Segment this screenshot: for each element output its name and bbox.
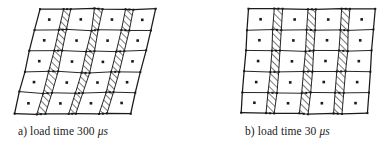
mesh-node-marker bbox=[130, 113, 132, 115]
mesh-midside-node-marker bbox=[274, 71, 276, 73]
mesh-node-marker bbox=[282, 8, 284, 10]
mesh-node-marker bbox=[145, 49, 147, 51]
mesh-midside-node-marker bbox=[340, 70, 342, 72]
mesh-node-marker bbox=[93, 7, 95, 9]
caption-unit-b: μs bbox=[319, 125, 329, 137]
mesh-cell-center-dot bbox=[106, 39, 109, 42]
mesh-node-marker bbox=[105, 91, 107, 93]
mesh-node-marker bbox=[333, 112, 335, 114]
mesh-cell-center-dot bbox=[287, 102, 290, 105]
mesh-node-marker bbox=[150, 29, 152, 31]
mesh-midside-node-marker bbox=[277, 8, 279, 10]
caption-panel-b: b) load time 30 μs bbox=[193, 124, 385, 138]
mesh-node-marker bbox=[298, 112, 300, 114]
mesh-node-marker bbox=[128, 29, 130, 31]
mesh-cell-center-dot bbox=[359, 39, 362, 42]
mesh-midside-node-marker bbox=[338, 92, 340, 94]
mesh-cell-center-dot bbox=[326, 39, 329, 42]
mesh-cell-center-dot bbox=[258, 39, 261, 42]
mesh-cell-center-dot bbox=[322, 81, 325, 84]
caption-text-b: b) load time 30 bbox=[245, 125, 319, 137]
mesh-midside-node-marker bbox=[275, 50, 277, 52]
mesh-midside-node-marker bbox=[124, 29, 126, 31]
mesh-node-marker bbox=[115, 51, 117, 53]
mesh-cell-center-dot bbox=[65, 81, 68, 84]
mesh-midside-node-marker bbox=[66, 8, 68, 10]
mesh-node-marker bbox=[155, 8, 157, 10]
mesh-node-marker bbox=[120, 29, 122, 31]
mesh-node-marker bbox=[341, 113, 343, 115]
mesh-cell-center-dot bbox=[33, 81, 36, 84]
mesh-midside-node-marker bbox=[305, 92, 307, 94]
mesh-node-marker bbox=[345, 70, 347, 72]
mesh-midside-node-marker bbox=[85, 72, 87, 74]
mesh-node-marker bbox=[301, 92, 303, 94]
mesh-node-marker bbox=[307, 113, 309, 115]
mesh-node-marker bbox=[36, 113, 38, 115]
mesh-cell-center-dot bbox=[38, 60, 41, 63]
mesh-node-marker bbox=[269, 71, 271, 73]
mesh-node-marker bbox=[265, 112, 267, 114]
mesh-node-marker bbox=[341, 8, 343, 10]
mesh-cell-center-dot bbox=[360, 18, 363, 21]
mesh-node-marker bbox=[97, 29, 99, 31]
mesh-cell-center-dot bbox=[48, 18, 51, 21]
mesh-node-marker bbox=[24, 71, 26, 73]
mesh-node-marker bbox=[14, 113, 16, 115]
mesh-cell-center-dot bbox=[120, 102, 123, 105]
mesh-midside-node-marker bbox=[94, 29, 96, 31]
figure-container: a) load time 300 μs b) load time 30 μs bbox=[0, 0, 385, 151]
mesh-node-marker bbox=[70, 8, 72, 10]
mesh-node-marker bbox=[241, 92, 243, 94]
mesh-node-marker bbox=[374, 8, 376, 10]
mesh-cell-center-dot bbox=[102, 61, 105, 64]
mesh-node-marker bbox=[372, 28, 374, 30]
mesh-node-marker bbox=[74, 92, 76, 94]
mesh-midside-node-marker bbox=[345, 8, 347, 10]
mesh-node-marker bbox=[312, 71, 314, 73]
mesh-node-marker bbox=[280, 29, 282, 31]
mesh-midside-node-marker bbox=[114, 71, 116, 73]
mesh-cell-center-dot bbox=[136, 39, 139, 42]
mesh-cell-center-dot bbox=[356, 81, 359, 84]
mesh-cell-center-dot bbox=[131, 60, 134, 63]
mesh-node-marker bbox=[366, 112, 368, 114]
mesh-cell-center-dot bbox=[257, 60, 260, 63]
mesh-node-marker bbox=[18, 91, 20, 93]
mesh-node-marker bbox=[303, 70, 305, 72]
mesh-node-marker bbox=[139, 71, 141, 73]
mesh-node-marker bbox=[339, 29, 341, 31]
mesh-cell-center-dot bbox=[141, 19, 144, 22]
mesh-node-marker bbox=[313, 49, 315, 51]
mesh-gridline bbox=[15, 9, 40, 113]
mesh-gridline bbox=[241, 9, 248, 113]
mesh-cell-hatched bbox=[37, 93, 52, 115]
caption-text-a: a) load time 300 bbox=[18, 125, 98, 137]
mesh-node-marker bbox=[28, 50, 30, 52]
mesh-node-marker bbox=[273, 112, 275, 114]
mesh-midside-node-marker bbox=[311, 8, 313, 10]
mesh-midside-node-marker bbox=[342, 50, 344, 52]
mesh-midside-node-marker bbox=[310, 29, 312, 31]
mesh-node-marker bbox=[248, 8, 250, 10]
mesh-node-marker bbox=[371, 49, 373, 51]
mesh-node-marker bbox=[51, 92, 53, 94]
mesh-cell-center-dot bbox=[253, 101, 256, 104]
mesh-node-marker bbox=[81, 72, 83, 74]
mesh-node-marker bbox=[123, 50, 125, 52]
mesh-midside-node-marker bbox=[89, 50, 91, 52]
mesh-midside-node-marker bbox=[269, 112, 271, 114]
mesh-node-marker bbox=[271, 50, 273, 52]
mesh-cell-center-dot bbox=[293, 18, 296, 21]
mesh-node-marker bbox=[279, 49, 281, 51]
mesh-node-marker bbox=[315, 8, 317, 10]
mesh-midside-node-marker bbox=[309, 50, 311, 52]
mesh-node-marker bbox=[306, 29, 308, 31]
mesh-cell-center-dot bbox=[354, 102, 357, 105]
mesh-cell-center-dot bbox=[126, 81, 129, 84]
mesh-node-marker bbox=[53, 50, 55, 52]
mesh-cell-center-dot bbox=[111, 18, 114, 21]
mesh-node-marker bbox=[90, 30, 92, 32]
mesh-cell-center-dot bbox=[291, 60, 294, 63]
mesh-cell-center-dot bbox=[79, 18, 82, 21]
